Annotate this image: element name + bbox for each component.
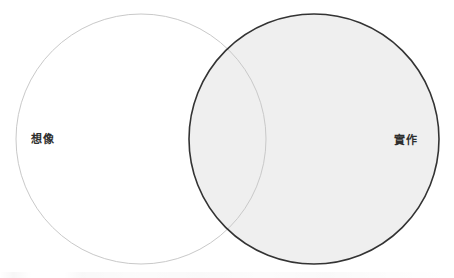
venn-canvas (0, 0, 454, 278)
set-label-imagination: 想像 (31, 134, 54, 145)
set-label-practice: 實作 (394, 135, 417, 146)
venn-diagram-figure: 想像 實作 (0, 0, 454, 278)
